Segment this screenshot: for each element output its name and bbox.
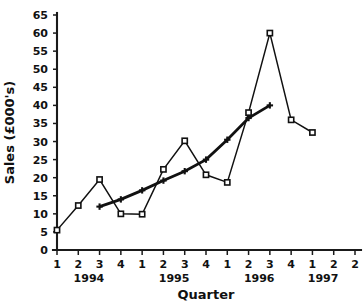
data-point-marker — [54, 228, 59, 233]
x-tick-label: 2 — [351, 258, 359, 271]
y-tick-label: 30 — [33, 136, 49, 149]
data-point-marker — [97, 177, 102, 182]
data-point-marker — [118, 211, 123, 216]
series-line-2 — [100, 105, 270, 206]
x-tick-label: 1 — [53, 258, 61, 271]
x-axis-year-label: 1995 — [159, 272, 190, 285]
sales-quarter-line-chart: 0510152025303540455055606512341234123412… — [0, 0, 364, 303]
y-tick-label: 5 — [40, 226, 48, 239]
x-tick-label: 4 — [287, 258, 295, 271]
y-tick-label: 50 — [33, 63, 49, 76]
y-tick-label: 60 — [33, 27, 49, 40]
x-tick-label: 3 — [96, 258, 104, 271]
x-tick-label: 2 — [245, 258, 253, 271]
y-axis-title: Sales (£000's) — [2, 81, 17, 184]
x-tick-label: 1 — [309, 258, 317, 271]
y-tick-label: 45 — [33, 81, 48, 94]
data-point-marker — [225, 180, 230, 185]
data-point-marker — [140, 212, 145, 217]
data-point-marker — [182, 138, 187, 143]
x-tick-label: 4 — [117, 258, 125, 271]
y-tick-label: 55 — [33, 45, 48, 58]
x-axis-title: Quarter — [178, 287, 236, 302]
y-tick-label: 35 — [33, 117, 48, 130]
y-tick-label: 65 — [33, 9, 48, 22]
y-tick-label: 40 — [33, 99, 49, 112]
x-tick-label: 3 — [181, 258, 189, 271]
y-tick-label: 15 — [33, 190, 48, 203]
chart-canvas: 0510152025303540455055606512341234123412… — [0, 0, 364, 303]
x-tick-label: 1 — [223, 258, 231, 271]
data-point-marker — [267, 30, 272, 35]
data-point-marker — [203, 172, 208, 177]
data-point-marker — [289, 117, 294, 122]
x-tick-label: 3 — [266, 258, 274, 271]
data-point-marker — [310, 130, 315, 135]
x-tick-label: 2 — [160, 258, 168, 271]
y-tick-label: 10 — [33, 208, 49, 221]
x-tick-label: 2 — [74, 258, 82, 271]
x-axis-year-label: 1997 — [308, 272, 339, 285]
data-point-marker — [76, 203, 81, 208]
x-tick-label: 2 — [330, 258, 338, 271]
x-axis-year-label: 1996 — [244, 272, 275, 285]
data-point-marker — [246, 110, 251, 115]
x-axis-year-label: 1994 — [74, 272, 105, 285]
series-line-1 — [57, 33, 312, 230]
y-tick-label: 20 — [33, 172, 49, 185]
y-tick-label: 0 — [40, 244, 48, 257]
data-point-marker — [161, 167, 166, 172]
y-tick-label: 25 — [33, 154, 48, 167]
x-tick-label: 4 — [202, 258, 210, 271]
x-tick-label: 1 — [138, 258, 146, 271]
